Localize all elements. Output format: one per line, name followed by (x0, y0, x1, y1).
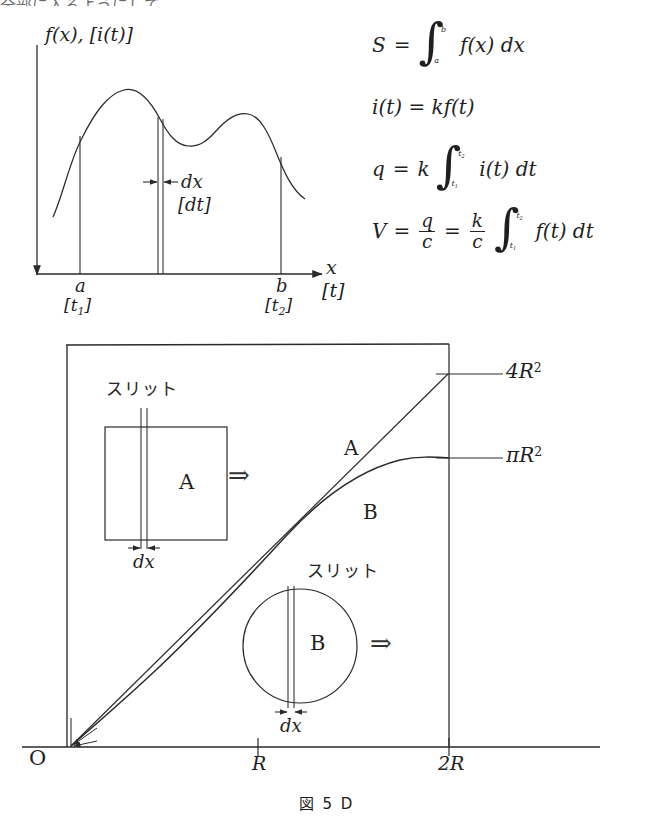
curve-A-line (71, 374, 448, 746)
formula-row-it: i(t) = kf(t) (372, 76, 594, 138)
arrow-right-circle-icon: ⇒ (370, 630, 392, 656)
fraction-1-denominator: c (419, 231, 435, 252)
formula-V-equals-2: = (444, 219, 461, 243)
formula-S-equals: = (394, 33, 411, 57)
dx-label-square: dx (133, 553, 155, 571)
slit-label-square: スリット (106, 375, 178, 400)
fraction-2-denominator: c (470, 231, 485, 252)
curve-label-B: B (363, 502, 378, 522)
integral-3-lower-limit: t1 (510, 241, 516, 251)
inset-square-A (105, 427, 227, 540)
top-dt-label: [dt] (178, 196, 211, 214)
top-dx-label: dx (181, 173, 203, 191)
formula-q-lhs: q (372, 157, 385, 181)
level-label-4R2: 4R2 (506, 361, 542, 381)
origin-pointer-1 (73, 728, 97, 745)
formula-q-integrand: i(t) dt (479, 157, 536, 181)
bottom-tick-label-R: R (252, 754, 266, 773)
fraction-k-over-c: k c (470, 211, 485, 251)
figure-caption: 図 5 D (0, 792, 653, 813)
formula-row-V: V = q c = k c ∫ t2 t1 f(t) dt (372, 200, 594, 262)
integral-1-upper-limit: b (441, 25, 446, 34)
formula-V-lhs: V (372, 219, 386, 243)
arrow-right-square-icon: ⇒ (228, 462, 250, 488)
integral-2-upper-limit: t2 (458, 149, 464, 159)
inset-circle-label-B: B (310, 633, 325, 654)
fraction-1-numerator: q (419, 211, 435, 231)
inset-square-label-A: A (179, 472, 194, 493)
formula-S-lhs: S (372, 33, 386, 57)
top-figure-group (37, 45, 322, 275)
top-tick-label-a-sub: [t1] (64, 297, 91, 318)
formula-V-equals-1: = (393, 219, 410, 243)
formula-S-integrand: f(x) dx (460, 33, 525, 57)
top-x-axis-label-t: [t] (322, 281, 344, 300)
bottom-frame-top (66, 344, 449, 345)
top-tick-label-a: a (75, 277, 86, 295)
formula-q-k: k (418, 157, 430, 181)
bottom-tick-label-2R: 2R (438, 754, 464, 773)
curve-B-path (71, 457, 449, 746)
formula-it-text: i(t) = kf(t) (372, 95, 475, 119)
fraction-2-numerator: k (470, 211, 485, 231)
figure-page: 全部に入るようにして (0, 0, 653, 832)
bottom-origin-label: O (29, 748, 46, 769)
inset-circle-B (243, 589, 357, 703)
curve-label-A: A (344, 438, 358, 458)
slit-label-circle: スリット (307, 557, 379, 582)
formula-row-S: S = ∫ b a f(x) dx (372, 14, 594, 76)
top-y-axis-label: f(x), [i(t)] (45, 25, 133, 44)
fraction-q-over-c: q c (419, 211, 435, 251)
top-tick-label-b-sub: [t2] (265, 297, 292, 318)
top-tick-label-b: b (276, 277, 288, 295)
integral-1-lower-limit: a (434, 56, 439, 65)
formula-V-integrand: f(t) dt (535, 219, 593, 243)
top-x-axis-label-x: x (326, 258, 337, 277)
formula-block: S = ∫ b a f(x) dx i(t) = kf(t) q = k ∫ t… (372, 14, 594, 262)
integral-3-upper-limit: t2 (516, 211, 522, 221)
bottom-figure-group (22, 344, 600, 756)
integral-sign-2: ∫ t2 t1 (436, 151, 462, 187)
integral-2-lower-limit: t1 (452, 179, 458, 189)
formula-q-equals: = (393, 157, 410, 181)
dx-label-circle: dx (280, 717, 302, 735)
integral-sign-1: ∫ b a (418, 27, 444, 63)
level-label-piR2: πR2 (506, 445, 542, 465)
formula-row-q: q = k ∫ t2 t1 i(t) dt (372, 138, 594, 200)
integral-sign-3: ∫ t2 t1 (494, 213, 520, 249)
